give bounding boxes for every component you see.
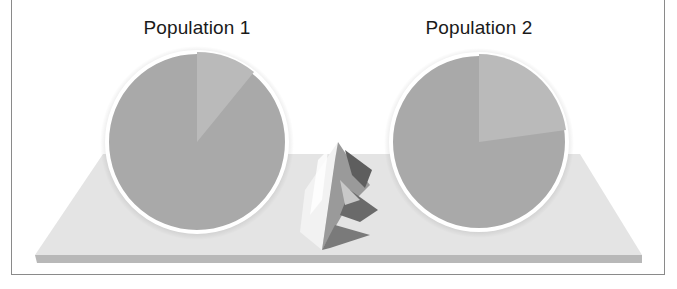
diagram-canvas: [0, 0, 677, 289]
pie-population-2: [384, 48, 574, 238]
pie-2-slice: [479, 54, 566, 142]
title-population-2: Population 2: [379, 17, 579, 39]
pie-population-1: [100, 46, 294, 240]
title-population-1: Population 1: [97, 17, 297, 39]
